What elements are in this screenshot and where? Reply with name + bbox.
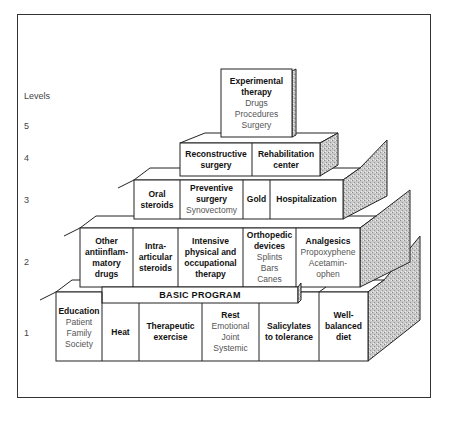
block-title: steroids <box>140 200 173 211</box>
block-rest: Rest Emotional Joint Systemic <box>202 303 259 361</box>
block-item: Emotional <box>212 321 250 332</box>
block-education: Education Patient Family Society <box>56 292 102 361</box>
block-title: Rehabilitation <box>258 149 314 160</box>
block-title: Salicylates <box>267 321 311 332</box>
block-title: Preventive <box>190 183 233 194</box>
block-item: Procedures <box>235 109 278 120</box>
block-title: surgery <box>196 194 227 205</box>
block-orthopedic-devices: Orthopedic devices Splints Bars Canes <box>243 228 296 287</box>
block-title: Heat <box>111 327 129 338</box>
block-title: exercise <box>153 332 187 343</box>
block-analgesics: Analgesics Propoxyphene Acetamin- ophen <box>296 228 360 287</box>
block-title: therapy <box>241 87 272 98</box>
block-title: occupational <box>184 258 236 269</box>
block-intra-articular-steroids: Intra- articular steroids <box>133 228 178 287</box>
block-title: Rest <box>221 310 239 321</box>
block-title: Oral <box>148 189 165 200</box>
block-title: articular <box>139 252 173 263</box>
block-title: to tolerance <box>265 332 313 343</box>
block-title: steroids <box>139 263 172 274</box>
block-title: devices <box>254 241 285 252</box>
block-preventive-surgery: Preventive surgery Synovectomy <box>180 180 243 219</box>
block-title: Experimental <box>230 76 283 87</box>
block-well-balanced-diet: Well- balanced diet <box>319 292 368 361</box>
block-item: Splints <box>257 252 283 263</box>
block-rehabilitation-center: Rehabilitation center <box>252 143 320 176</box>
block-title: Therapeutic <box>146 321 194 332</box>
block-item: Drugs <box>245 98 268 109</box>
block-title: Other <box>95 236 118 247</box>
block-title: surgery <box>200 160 231 171</box>
block-item: Society <box>65 339 93 350</box>
block-heat: Heat <box>102 303 139 361</box>
block-title: diet <box>336 332 351 343</box>
block-title: drugs <box>95 269 119 280</box>
block-salicylates: Salicylates to tolerance <box>259 303 319 361</box>
block-therapeutic-exercise: Therapeutic exercise <box>139 303 202 361</box>
block-hospitalization: Hospitalization <box>270 180 343 219</box>
block-title: Hospitalization <box>276 194 336 205</box>
block-title: Analgesics <box>306 236 351 247</box>
block-reconstructive-surgery: Reconstructive surgery <box>180 143 252 176</box>
block-item: Synovectomy <box>186 205 237 216</box>
basic-program-banner: BASIC PROGRAM <box>102 287 298 303</box>
block-title: balanced <box>325 321 362 332</box>
block-title: Gold <box>247 194 266 205</box>
block-item: Systemic <box>213 343 247 354</box>
block-title: matory <box>92 258 120 269</box>
block-item: ophen <box>316 269 340 280</box>
block-gold: Gold <box>243 180 270 219</box>
block-item: Surgery <box>242 120 272 131</box>
block-experimental-therapy: Experimental therapy Drugs Procedures Su… <box>221 69 292 137</box>
block-item: Patient <box>66 317 92 328</box>
block-item: Acetamin- <box>309 258 347 269</box>
block-item: Joint <box>222 332 240 343</box>
block-title: antiinflam- <box>85 247 128 258</box>
block-intensive-therapy: Intensive physical and occupational ther… <box>178 228 243 287</box>
block-title: Reconstructive <box>185 149 246 160</box>
block-item: Family <box>66 328 91 339</box>
block-title: center <box>273 160 299 171</box>
block-oral-steroids: Oral steroids <box>134 180 180 219</box>
block-item: Propoxyphene <box>301 247 356 258</box>
block-item: Canes <box>257 274 282 285</box>
block-item: Bars <box>261 263 278 274</box>
block-title: Orthopedic <box>247 230 292 241</box>
block-other-antiinflammatory-drugs: Other antiinflam- matory drugs <box>80 228 133 287</box>
block-title: therapy <box>195 269 226 280</box>
block-title: Well- <box>333 310 353 321</box>
block-title: Intensive <box>192 236 229 247</box>
block-title: physical and <box>185 247 237 258</box>
block-title: Education <box>58 306 99 317</box>
block-title: Intra- <box>145 241 166 252</box>
